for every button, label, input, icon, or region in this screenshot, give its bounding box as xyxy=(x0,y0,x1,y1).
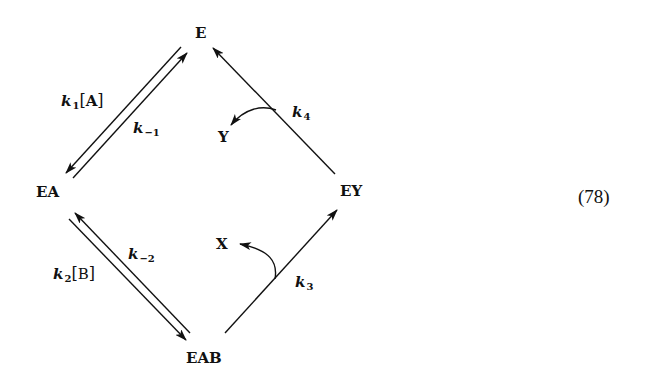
mechanism-arrows xyxy=(0,0,649,382)
equation-number: (78) xyxy=(578,187,610,206)
arrow-ey-to-e xyxy=(213,48,335,174)
node-ea: EA xyxy=(36,185,59,200)
node-ey: EY xyxy=(340,184,362,199)
node-eab: EAB xyxy=(186,351,222,366)
rate-k-minus1: k−1 xyxy=(133,121,160,138)
arrow-ea-to-e xyxy=(73,53,187,178)
rate-k2-b: k2[B] xyxy=(53,266,95,284)
rate-k1-a: k1[A] xyxy=(61,93,104,111)
arrow-release-x xyxy=(240,244,276,279)
product-x: X xyxy=(216,237,228,252)
product-y: Y xyxy=(218,130,229,145)
rate-k-minus2: k−2 xyxy=(128,247,155,264)
arrow-eab-to-ey xyxy=(225,210,337,333)
node-e: E xyxy=(195,26,206,41)
rate-k3: k3 xyxy=(295,275,313,292)
arrow-release-y xyxy=(231,108,276,125)
rate-k4: k4 xyxy=(292,105,310,122)
